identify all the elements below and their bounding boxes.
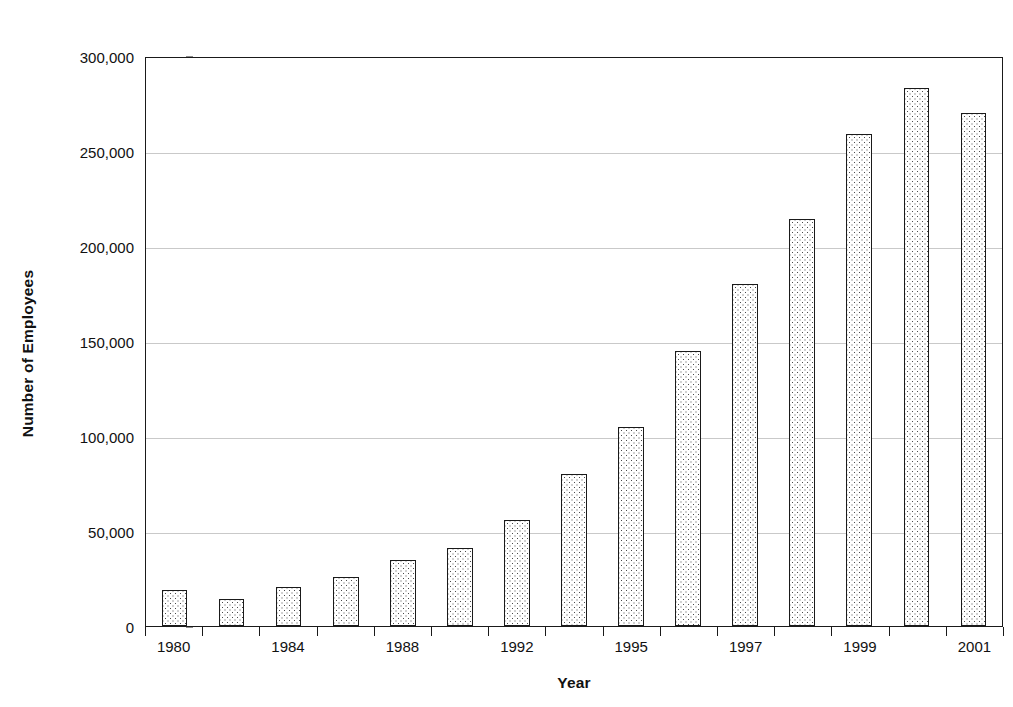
- x-axis-tick-mark: [1003, 627, 1004, 636]
- bar[interactable]: [504, 520, 530, 626]
- y-axis-tick-label: 300,000: [48, 50, 134, 65]
- y-axis-tick-label: 200,000: [48, 240, 134, 255]
- x-axis-tick-label: 1999: [831, 638, 888, 655]
- bar[interactable]: [219, 599, 245, 626]
- bar-slot: [603, 58, 660, 626]
- bar-slot: [545, 58, 602, 626]
- bar[interactable]: [447, 548, 473, 626]
- bar[interactable]: [789, 219, 815, 626]
- x-axis-title: Year: [145, 674, 1003, 692]
- x-axis-tick-mark: [431, 627, 432, 636]
- x-axis-tick-mark: [889, 627, 890, 636]
- x-axis-tick-mark: [946, 627, 947, 636]
- bar-slot: [945, 58, 1002, 626]
- bar[interactable]: [162, 590, 188, 626]
- bar-series: [146, 58, 1002, 626]
- bar-slot: [260, 58, 317, 626]
- bar-slot: [431, 58, 488, 626]
- bar-slot: [317, 58, 374, 626]
- bar-slot: [374, 58, 431, 626]
- bar-slot: [203, 58, 260, 626]
- bar-slot: [831, 58, 888, 626]
- bar-slot: [660, 58, 717, 626]
- x-axis-tick-mark: [717, 627, 718, 636]
- bar[interactable]: [618, 427, 644, 627]
- bar[interactable]: [675, 351, 701, 627]
- x-axis-tick-label: 1992: [488, 638, 545, 655]
- bar-slot: [146, 58, 203, 626]
- y-axis-tick-label: 50,000: [48, 525, 134, 540]
- plot-area: [145, 57, 1003, 627]
- x-axis-tick-label: 1984: [259, 638, 316, 655]
- x-axis-tick-marks: [145, 627, 1003, 636]
- x-axis-tick-label: 1980: [145, 638, 202, 655]
- y-axis-tick-label: 100,000: [48, 430, 134, 445]
- x-axis-tick-label: 1997: [717, 638, 774, 655]
- x-axis-tick-label: 2001: [946, 638, 1003, 655]
- x-axis-tick-mark: [145, 627, 146, 636]
- x-axis-tick-mark: [545, 627, 546, 636]
- bar[interactable]: [390, 560, 416, 626]
- bar[interactable]: [961, 113, 987, 626]
- bar[interactable]: [561, 474, 587, 626]
- bar-slot: [488, 58, 545, 626]
- x-axis-tick-mark: [317, 627, 318, 636]
- bar[interactable]: [846, 134, 872, 626]
- bar-slot: [717, 58, 774, 626]
- bar[interactable]: [276, 587, 302, 626]
- x-axis-tick-mark: [660, 627, 661, 636]
- x-axis-tick-mark: [202, 627, 203, 636]
- y-axis-tick-label: 250,000: [48, 145, 134, 160]
- x-axis-tick-mark: [603, 627, 604, 636]
- bar[interactable]: [333, 577, 359, 626]
- bar-slot: [888, 58, 945, 626]
- x-axis-tick-label: 1995: [603, 638, 660, 655]
- bar-slot: [774, 58, 831, 626]
- x-axis-tick-label: 1988: [374, 638, 431, 655]
- y-axis-tick-label: 0: [48, 620, 134, 635]
- y-axis-tick-labels: 300,000250,000200,000150,000100,00050,00…: [48, 0, 134, 707]
- bar-chart-figure: Number of Employees 300,000250,000200,00…: [0, 0, 1013, 707]
- x-axis-tick-mark: [774, 627, 775, 636]
- x-axis-tick-mark: [374, 627, 375, 636]
- y-axis-tick-label: 150,000: [48, 335, 134, 350]
- bar[interactable]: [732, 284, 758, 626]
- x-axis-tick-mark: [488, 627, 489, 636]
- bar[interactable]: [904, 88, 930, 626]
- x-axis-tick-mark: [259, 627, 260, 636]
- x-axis-tick-mark: [831, 627, 832, 636]
- x-axis-tick-labels: 19801984198819921995199719992001: [145, 638, 1003, 664]
